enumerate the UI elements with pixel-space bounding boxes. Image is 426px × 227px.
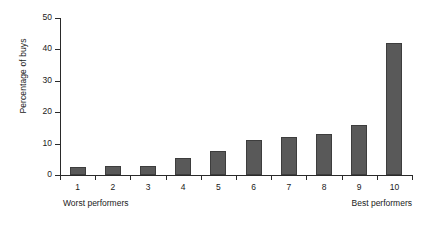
y-axis-tick: 30 — [55, 81, 60, 82]
bar — [351, 125, 367, 175]
bar — [316, 134, 332, 175]
y-axis-line — [60, 18, 61, 175]
bar — [386, 43, 402, 175]
x-axis-tick — [412, 175, 413, 180]
bar-chart-figure: Percentage of buys 01020304050 123456789… — [0, 0, 426, 227]
y-axis-tick-label: 10 — [30, 138, 52, 148]
x-axis-tick-label: 1 — [63, 182, 93, 192]
x-axis-tick-label: 7 — [274, 182, 304, 192]
bar — [70, 167, 86, 175]
x-axis-tick-label: 6 — [239, 182, 269, 192]
annotation-best-performers: Best performers — [352, 198, 412, 208]
bar — [210, 151, 226, 175]
x-axis-tick-label: 8 — [309, 182, 339, 192]
x-axis-tick — [201, 175, 202, 180]
bar — [281, 137, 297, 175]
x-axis-tick — [60, 175, 61, 180]
y-axis-tick: 20 — [55, 112, 60, 113]
y-axis-tick-label: 20 — [30, 106, 52, 116]
bar — [140, 166, 156, 175]
y-axis-tick: 50 — [55, 18, 60, 19]
y-axis-tick-label: 50 — [30, 12, 52, 22]
x-axis-tick — [236, 175, 237, 180]
plot-area: 01020304050 12345678910 — [60, 18, 412, 175]
x-axis-tick-label: 2 — [98, 182, 128, 192]
bar — [246, 140, 262, 175]
x-axis-tick — [306, 175, 307, 180]
bar — [105, 166, 121, 175]
x-axis-tick — [166, 175, 167, 180]
x-axis-tick-label: 10 — [379, 182, 409, 192]
y-axis-tick: 10 — [55, 144, 60, 145]
x-axis-tick — [377, 175, 378, 180]
x-axis-tick-label: 3 — [133, 182, 163, 192]
x-axis-tick-label: 9 — [344, 182, 374, 192]
y-axis-tick-label: 30 — [30, 75, 52, 85]
y-axis-tick-label: 40 — [30, 43, 52, 53]
x-axis-tick-label: 5 — [203, 182, 233, 192]
y-axis-tick-label: 0 — [30, 169, 52, 179]
annotation-worst-performers: Worst performers — [63, 198, 129, 208]
bar — [175, 158, 191, 175]
x-axis-tick — [95, 175, 96, 180]
x-axis-tick — [271, 175, 272, 180]
x-axis-tick — [130, 175, 131, 180]
x-axis-tick-label: 4 — [168, 182, 198, 192]
y-axis-tick: 40 — [55, 49, 60, 50]
x-axis-tick — [342, 175, 343, 180]
